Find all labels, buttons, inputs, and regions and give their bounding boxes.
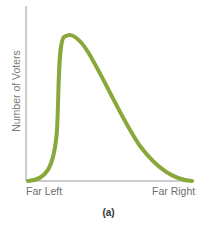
chart-plot bbox=[0, 0, 207, 234]
x-tick-far-right: Far Right bbox=[152, 185, 195, 197]
y-axis-label: Number of Voters bbox=[10, 41, 22, 141]
x-tick-far-left: Far Left bbox=[26, 185, 62, 197]
figure-caption: (a) bbox=[0, 207, 207, 218]
distribution-curve bbox=[28, 35, 192, 181]
